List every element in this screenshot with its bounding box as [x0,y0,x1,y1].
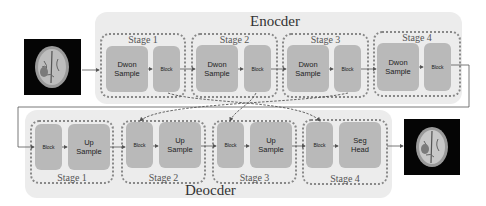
decoder-block-3: Block [217,122,244,168]
box-label: Dwon Sample [385,58,410,76]
decoder-upsample-1: Up Sample [68,124,110,170]
box-label: Block [133,142,145,148]
stage-label: Stage 3 [284,34,367,45]
decoder-upsample-3: Up Sample [250,122,292,168]
box-label: Up Sample [167,136,192,154]
box-label: Up Sample [76,138,101,156]
output-segmentation-image [404,119,460,175]
decoder-seg-head: Seg Head [339,122,381,168]
unet-architecture-diagram: Enocder Deocder Stage 1 Stage 2 Stage 3 … [0,0,486,206]
decoder-block-2: Block [126,122,153,168]
box-label: Dwon Sample [204,60,229,78]
encoder-downsample-4: Dwon Sample [377,43,419,91]
box-label: Block [42,144,54,150]
box-label: Seg Head [351,136,369,154]
box-label: Block [224,142,236,148]
input-brain-image [24,39,81,95]
stage-label: Stage 4 [375,32,459,43]
encoder-title: Enocder [250,13,300,30]
box-label: Block [160,66,172,72]
box-label: Block [341,66,353,72]
stage-label: Stage 2 [123,172,204,183]
encoder-block-2: Block [244,45,271,92]
box-label: Dwon Sample [295,60,320,78]
stage-label: Stage 1 [102,34,184,45]
decoder-title: Deocder [185,182,236,199]
encoder-block-1: Block [153,46,180,92]
encoder-block-4: Block [424,43,451,91]
decoder-block-4: Block [306,122,333,168]
box-label: Block [313,142,325,148]
box-label: Up Sample [258,136,283,154]
stage-label: Stage 2 [193,34,276,45]
stage-label: Stage 3 [214,172,295,183]
encoder-downsample-1: Dwon Sample [106,46,148,92]
encoder-block-3: Block [334,45,361,92]
stage-label: Stage 4 [304,173,386,184]
decoder-block-1: Block [35,124,62,170]
stage-label: Stage 1 [32,172,112,183]
encoder-downsample-3: Dwon Sample [287,45,329,92]
box-label: Dwon Sample [114,60,139,78]
decoder-upsample-2: Up Sample [159,122,201,168]
encoder-downsample-2: Dwon Sample [196,45,238,92]
box-label: Block [251,66,263,72]
box-label: Block [431,64,443,70]
